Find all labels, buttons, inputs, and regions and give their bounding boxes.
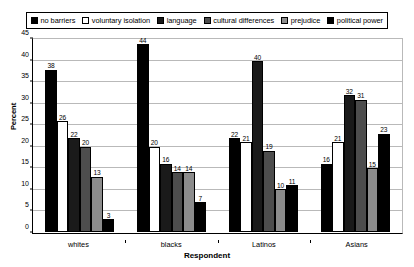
y-tick-mark [30, 210, 33, 211]
legend-item[interactable]: voluntary isolation [82, 17, 150, 25]
legend-swatch-icon [327, 17, 334, 24]
x-axis-category-label: whites [32, 240, 125, 249]
bar[interactable]: 19 [263, 151, 275, 232]
bar-slot: 13 [91, 40, 103, 232]
plot-wrapper: 051015202530354045 382622201334420161414… [32, 38, 403, 234]
x-axis-category-label: Latinos [218, 240, 311, 249]
x-axis-labels: whitesblacksLatinosAsians [32, 240, 403, 249]
bar[interactable]: 38 [45, 70, 57, 232]
bar[interactable]: 15 [367, 168, 379, 232]
bar[interactable]: 22 [229, 138, 241, 232]
bar-value-label: 31 [357, 92, 364, 100]
bar-slot: 21 [240, 40, 252, 232]
x-axis-title: Respondent [0, 251, 414, 260]
bar[interactable]: 16 [160, 164, 172, 232]
legend-item[interactable]: cultural differences [204, 17, 274, 25]
y-tick-label: 10 [21, 179, 29, 186]
bar-slot: 16 [321, 40, 333, 232]
bar[interactable]: 10 [275, 189, 287, 232]
bar[interactable]: 13 [91, 177, 103, 232]
bar-slot: 40 [252, 40, 264, 232]
bar-value-label: 22 [231, 131, 238, 139]
bar[interactable]: 20 [80, 147, 92, 232]
y-tick-mark [30, 81, 33, 82]
bar-slot: 20 [80, 40, 92, 232]
bar-value-label: 16 [323, 156, 330, 164]
y-tick-label: 0 [25, 223, 29, 230]
y-tick-label: 5 [25, 201, 29, 208]
y-tick-mark [30, 124, 33, 125]
bar[interactable]: 21 [240, 142, 252, 232]
bar-slot: 38 [45, 40, 57, 232]
bar-value-label: 14 [185, 165, 192, 173]
bar-group: 38262220133 [34, 40, 126, 232]
y-tick-mark [30, 167, 33, 168]
bar-group: 162132311523 [309, 40, 401, 232]
legend-item[interactable]: language [157, 17, 197, 25]
bar-slot: 31 [355, 40, 367, 232]
bar-slot: 22 [68, 40, 80, 232]
y-tick-label: 35 [21, 72, 29, 79]
x-tick-mark [125, 240, 126, 243]
chart-legend: no barriersvoluntary isolationlanguagecu… [26, 12, 388, 29]
legend-item[interactable]: no barriers [31, 17, 75, 25]
y-tick-label: 20 [21, 136, 29, 143]
bar[interactable]: 31 [355, 100, 367, 232]
bar[interactable]: 40 [252, 61, 264, 232]
bar[interactable]: 20 [149, 147, 161, 232]
bar-value-label: 15 [369, 161, 376, 169]
bar-slot: 10 [275, 40, 287, 232]
bar[interactable]: 7 [195, 202, 207, 232]
bar[interactable]: 21 [332, 142, 344, 232]
y-tick-mark [30, 38, 33, 39]
bar[interactable]: 3 [103, 219, 115, 232]
bar[interactable]: 11 [286, 185, 298, 232]
bar-value-label: 22 [70, 131, 77, 139]
x-axis-category-label: Asians [310, 240, 403, 249]
bar[interactable]: 44 [137, 44, 149, 232]
bar[interactable]: 22 [68, 138, 80, 232]
bar[interactable]: 32 [344, 95, 356, 232]
bar[interactable]: 26 [57, 121, 69, 232]
y-axis-title: Percent [9, 87, 18, 147]
y-tick-mark [30, 232, 33, 233]
bar-group: 222140191011 [218, 40, 310, 232]
bar-value-label: 13 [93, 169, 100, 177]
bar[interactable]: 23 [378, 134, 390, 232]
legend-item-label: political power [337, 17, 383, 25]
bar-slot: 23 [378, 40, 390, 232]
legend-item-label: no barriers [41, 17, 76, 25]
bar-value-label: 40 [254, 54, 261, 62]
y-tick-mark [30, 188, 33, 189]
bar-slot: 26 [57, 40, 69, 232]
y-tick-label: 25 [21, 115, 29, 122]
bar[interactable]: 14 [172, 172, 184, 232]
y-tick-label: 30 [21, 93, 29, 100]
bar-value-label: 16 [162, 156, 169, 164]
bar-slot: 14 [183, 40, 195, 232]
bar-slot: 15 [367, 40, 379, 232]
bar-slot: 7 [195, 40, 207, 232]
gridline [33, 38, 402, 39]
bar[interactable]: 14 [183, 172, 195, 232]
bar-value-label: 10 [277, 182, 284, 190]
bar-value-label: 3 [107, 212, 111, 220]
legend-swatch-icon [31, 17, 38, 24]
bar-group: 44201614147 [126, 40, 218, 232]
bar-value-label: 20 [151, 139, 158, 147]
x-axis-category-label: blacks [125, 240, 218, 249]
bar-value-label: 23 [380, 126, 387, 134]
bar[interactable]: 16 [321, 164, 333, 232]
legend-item[interactable]: political power [327, 17, 383, 25]
bar-value-label: 20 [82, 139, 89, 147]
bar-value-label: 14 [174, 165, 181, 173]
y-tick-mark [30, 102, 33, 103]
bar-slot: 16 [160, 40, 172, 232]
bar-slot: 22 [229, 40, 241, 232]
bar-slot: 44 [137, 40, 149, 232]
bar-groups: 3826222013344201614147222140191011162132… [34, 40, 401, 232]
legend-item-label: cultural differences [213, 17, 274, 25]
legend-item[interactable]: prejudice [281, 17, 320, 25]
bar-slot: 3 [103, 40, 115, 232]
y-tick-label: 15 [21, 158, 29, 165]
